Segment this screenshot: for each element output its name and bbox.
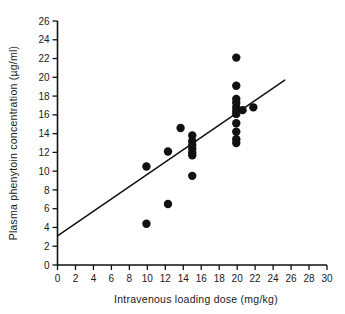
x-tick-label: 30	[321, 273, 333, 284]
y-tick-label: 12	[38, 147, 50, 158]
x-tick-label: 14	[178, 273, 190, 284]
scatter-plot-figure: 02468101214161820222426 0246810121416182…	[0, 0, 345, 314]
y-tick-label: 20	[38, 72, 50, 83]
x-tick-label: 10	[142, 273, 154, 284]
data-point	[232, 53, 240, 61]
y-axis: 02468101214161820222426	[38, 16, 57, 271]
y-tick-label: 14	[38, 128, 50, 139]
x-tick-label: 6	[109, 273, 115, 284]
x-axis-title: Intravenous loading dose (mg/kg)	[114, 293, 278, 305]
y-tick-label: 0	[44, 260, 50, 271]
x-tick-label: 26	[286, 273, 298, 284]
data-point	[176, 124, 184, 132]
data-point	[232, 128, 240, 136]
x-tick-label: 20	[232, 273, 244, 284]
x-tick-label: 22	[250, 273, 262, 284]
data-point	[232, 139, 240, 147]
y-axis-title: Plasma phenytoin concentration (µg/ml)	[7, 46, 19, 241]
y-tick-label: 6	[44, 203, 50, 214]
x-tick-label: 16	[196, 273, 208, 284]
data-point	[232, 82, 240, 90]
x-axis: 024681012141618202224262830	[55, 265, 333, 284]
y-tick-label: 10	[38, 166, 50, 177]
x-tick-label: 24	[268, 273, 280, 284]
y-tick-label: 8	[44, 185, 50, 196]
x-tick-label: 28	[303, 273, 315, 284]
data-point	[164, 200, 172, 208]
x-tick-label: 12	[160, 273, 172, 284]
data-point	[142, 220, 150, 228]
y-tick-label: 4	[44, 222, 50, 233]
x-tick-label: 8	[127, 273, 133, 284]
regression-line	[58, 80, 285, 236]
data-point	[188, 151, 196, 159]
x-tick-label: 4	[91, 273, 97, 284]
data-points-layer	[142, 53, 257, 228]
y-tick-label: 24	[38, 34, 50, 45]
x-tick-label: 18	[214, 273, 226, 284]
y-tick-label: 16	[38, 109, 50, 120]
data-point	[164, 147, 172, 155]
y-tick-label: 2	[44, 241, 50, 252]
y-tick-label: 18	[38, 91, 50, 102]
data-point	[232, 119, 240, 127]
data-point	[188, 172, 196, 180]
y-tick-label: 26	[38, 16, 50, 27]
x-tick-label: 2	[73, 273, 79, 284]
y-tick-label: 22	[38, 53, 50, 64]
data-point	[142, 162, 150, 170]
chart-canvas: 02468101214161820222426 0246810121416182…	[0, 0, 345, 314]
x-tick-label: 0	[55, 273, 61, 284]
regression-line-layer	[58, 80, 285, 236]
